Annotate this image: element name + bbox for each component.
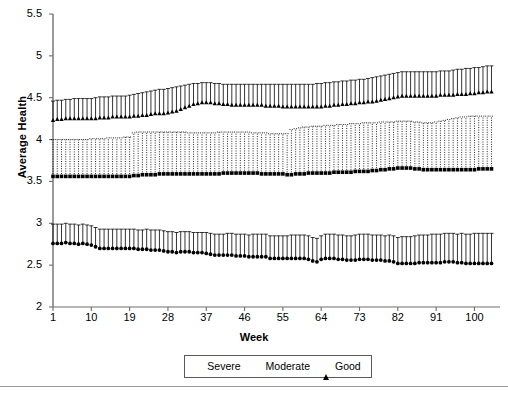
data-point [217,253,221,257]
data-point [174,109,178,113]
data-point [251,255,255,259]
data-point [460,261,464,265]
data-point [179,107,183,111]
data-point [149,248,153,252]
data-point [477,90,481,94]
data-point [149,112,153,116]
series-severe [51,223,493,265]
data-point [260,255,264,259]
data-point [98,115,102,119]
data-point [132,247,136,251]
data-point [417,94,421,98]
data-point [60,175,64,179]
data-point [68,116,72,120]
data-point [115,247,119,251]
data-point [192,251,196,255]
data-point [383,259,387,263]
data-point [366,257,370,261]
data-point [85,175,89,179]
data-point [459,92,463,96]
data-point [349,258,353,262]
data-point [255,103,259,107]
data-point [315,171,319,175]
data-point [187,104,191,108]
axes [49,14,500,311]
data-point [217,172,221,176]
data-point [55,175,59,179]
data-point [175,251,179,255]
data-point [456,261,460,265]
data-point [230,103,234,107]
data-point [392,260,396,264]
data-point [264,104,268,108]
data-point [289,105,293,109]
data-point [357,100,361,104]
data-point [192,172,196,176]
data-point [106,115,110,119]
data-point [285,173,289,177]
data-point [217,101,221,105]
data-point [85,242,89,246]
data-point [302,257,306,261]
data-point [281,257,285,261]
y-tick-label: 5.5 [8,7,42,19]
data-point [340,102,344,106]
data-point [294,257,298,261]
data-point [238,254,242,258]
x-tick-label: 82 [378,311,418,323]
data-point [161,111,165,115]
data-point [158,172,162,176]
data-point [421,94,425,98]
data-point [179,172,183,176]
data-point [72,175,76,179]
data-point [481,90,485,94]
data-point [94,175,98,179]
data-point [107,175,111,179]
data-point [64,175,68,179]
data-point [251,171,255,175]
data-point [323,104,327,108]
chart-figure: Average Health Week 22.533.544.555.5 110… [0,0,508,398]
data-point [239,171,243,175]
legend-item-severe: Severe [195,361,240,372]
legend-label-severe: Severe [207,361,240,372]
data-point [276,104,280,108]
data-point [196,172,200,176]
data-point [153,111,157,115]
data-point [362,257,366,261]
x-tick-label: 10 [71,311,111,323]
data-point [102,247,106,251]
data-point [76,116,80,120]
data-point [242,103,246,107]
data-point [396,166,400,170]
data-point [238,103,242,107]
x-tick-label: 1 [33,311,73,323]
data-point [336,257,340,261]
data-point [481,262,485,266]
data-point [255,255,259,259]
x-tick-label: 100 [454,311,494,323]
data-point [421,261,425,265]
data-point [311,259,315,263]
data-point [451,260,455,264]
data-point [336,103,340,107]
data-point [464,168,468,172]
data-point [128,175,132,179]
data-point [404,94,408,98]
data-point [127,115,131,119]
data-point [290,173,294,177]
data-point [225,102,229,106]
data-point [281,105,285,109]
x-tick-label: 64 [301,311,341,323]
data-point [153,248,157,252]
data-point [358,257,362,261]
data-point [204,100,208,104]
data-point [383,168,387,172]
data-point [260,172,264,176]
data-point [387,96,391,100]
data-point [209,252,213,256]
square-marker-icon [254,363,262,371]
legend: Severe Moderate Good [184,355,372,378]
data-point [285,105,289,109]
x-tick-label: 37 [186,311,226,323]
